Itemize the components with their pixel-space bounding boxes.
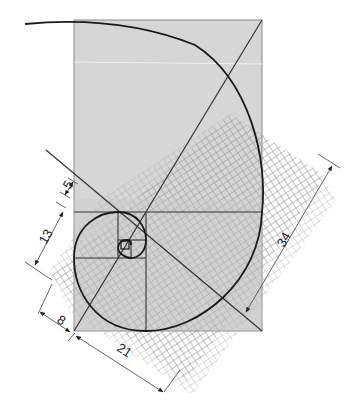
- dim-label-8: 8: [54, 312, 68, 329]
- golden-spiral-diagram: 5 13 8 21 34: [0, 0, 354, 420]
- dim-label-13: 13: [36, 226, 56, 246]
